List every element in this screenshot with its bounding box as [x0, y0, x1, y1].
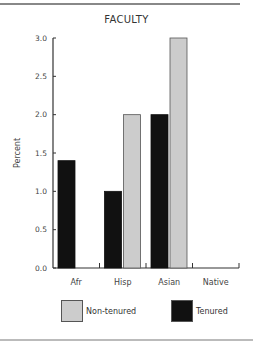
bar-hisp-tenured	[105, 191, 122, 268]
y-tick-label: 1.0	[35, 187, 47, 196]
bar-chart: 0.00.51.01.52.02.53.0PercentAfrHispAsian…	[0, 0, 253, 300]
y-tick-label: 0.5	[35, 225, 47, 234]
y-tick-label: 2.5	[35, 72, 47, 81]
legend-label-non-tenured: Non-tenured	[86, 307, 136, 316]
bar-afr-tenured	[58, 161, 75, 268]
bar-asian-non-tenured	[170, 38, 187, 268]
y-axis-label: Percent	[13, 138, 22, 168]
legend-label-tenured: Tenured	[196, 307, 228, 316]
y-tick-label: 2.0	[35, 110, 47, 119]
x-category-label: Native	[203, 278, 229, 287]
legend-item-non-tenured: Non-tenured	[61, 300, 136, 322]
y-tick-label: 1.5	[35, 149, 47, 158]
y-tick-label: 3.0	[35, 34, 47, 43]
bar-asian-tenured	[151, 115, 168, 268]
bottom-rule	[0, 339, 253, 341]
x-category-label: Asian	[158, 278, 180, 287]
bar-hisp-non-tenured	[124, 115, 141, 268]
y-tick-label: 0.0	[35, 264, 47, 273]
legend-item-tenured: Tenured	[171, 300, 228, 322]
legend: Non-tenured Tenured	[0, 300, 253, 328]
legend-swatch-tenured	[171, 300, 193, 322]
x-category-label: Hisp	[114, 278, 131, 287]
legend-swatch-non-tenured	[61, 300, 83, 322]
x-category-label: Afr	[71, 278, 83, 287]
